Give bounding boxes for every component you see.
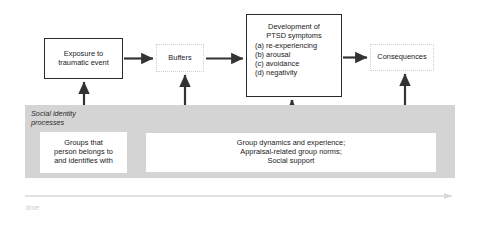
node-consequences-label: Consequences bbox=[377, 53, 426, 62]
ptsd-social-identity-diagram: Social identity processes bbox=[0, 0, 480, 225]
node-buffers[interactable]: Buffers bbox=[156, 44, 204, 72]
node-consequences[interactable]: Consequences bbox=[370, 44, 434, 71]
node-groups-line-3: and identifies with bbox=[54, 157, 113, 166]
node-exposure-line-2: traumatic event bbox=[58, 59, 109, 68]
node-group-dynamics-line-3: Social support bbox=[268, 157, 315, 166]
node-groups-membership[interactable]: Groups that person belongs to and identi… bbox=[40, 132, 127, 173]
time-axis-label: time bbox=[26, 204, 39, 211]
node-ptsd-symptom-list: (a) re-experiencing (b) arousal (c) avoi… bbox=[247, 42, 317, 77]
node-exposure-to-traumatic-event[interactable]: Exposure to traumatic event bbox=[44, 38, 123, 79]
band-label-line-2: processes bbox=[31, 119, 76, 128]
node-group-dynamics[interactable]: Group dynamics and experience; Appraisal… bbox=[146, 133, 436, 172]
ptsd-symptom-item: (d) negativity bbox=[255, 69, 317, 78]
node-ptsd-development[interactable]: Development of PTSD symptoms (a) re-expe… bbox=[246, 14, 342, 97]
node-buffers-label: Buffers bbox=[168, 54, 191, 63]
node-ptsd-heading: Development of PTSD symptoms bbox=[266, 23, 321, 40]
social-identity-band-label: Social identity processes bbox=[31, 110, 76, 127]
node-ptsd-heading-line-2: PTSD symptoms bbox=[266, 32, 321, 41]
